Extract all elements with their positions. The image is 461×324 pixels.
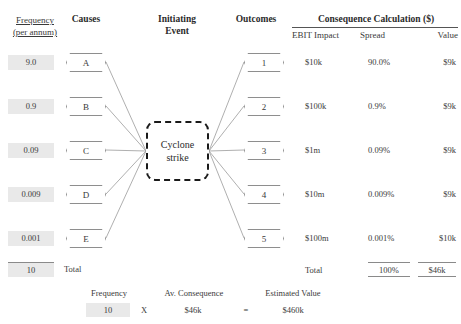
wire-cause-a: [106, 62, 146, 151]
cause-node-a[interactable]: A: [66, 53, 106, 72]
summary-av-consequence-label: Av. Consequence: [148, 288, 240, 298]
frequency-cell: 0.009: [8, 187, 54, 202]
cause-node-d[interactable]: D: [66, 185, 106, 204]
header-frequency-line2: (per annum): [13, 26, 57, 38]
value-cell: $9k: [418, 144, 456, 156]
outcome-node-5[interactable]: 5: [244, 229, 284, 248]
header-consequence-calculation: Consequence Calculation ($): [292, 14, 460, 24]
initiating-event-node[interactable]: Cyclone strike: [146, 121, 209, 181]
cause-node-e[interactable]: E: [66, 229, 106, 248]
value-cell: $10k: [418, 232, 456, 244]
frequency-total: 10: [8, 262, 54, 277]
initiating-event-label-line2: strike: [166, 152, 188, 163]
header-frequency-line1: Frequency: [16, 14, 54, 26]
initiating-event-label: Cyclone strike: [161, 138, 194, 164]
ebit-impact-cell: $100k: [305, 100, 363, 112]
wire-outcome-4: [209, 151, 244, 194]
ebit-impact-cell: $10k: [305, 56, 363, 68]
wire-cause-e: [106, 151, 146, 238]
consequence-header-rule: [292, 27, 458, 28]
outcome-node-2[interactable]: 2: [244, 97, 284, 116]
ebit-impact-cell: $100m: [305, 232, 363, 244]
ebit-impact-cell: $1m: [305, 144, 363, 156]
outcome-node-4[interactable]: 4: [244, 185, 284, 204]
cause-node-b[interactable]: B: [66, 97, 106, 116]
header-spread: Spread: [360, 30, 412, 40]
wire-outcome-2: [209, 106, 244, 151]
summary-av-consequence-value: $46k: [158, 303, 228, 317]
value-total: $46k: [418, 262, 456, 277]
outcome-node-3[interactable]: 3: [244, 141, 284, 160]
summary-frequency-value: 10: [86, 303, 130, 317]
summary-frequency-label: Frequency: [78, 288, 140, 298]
header-initiating-line2: Event: [165, 26, 189, 36]
frequency-cell: 9.0: [8, 55, 54, 70]
header-causes: Causes: [58, 14, 114, 26]
wire-cause-b: [106, 106, 146, 151]
header-initiating-event: Initiating Event: [130, 14, 224, 37]
frequency-total-label: Total: [64, 264, 81, 274]
summary-estimated-value: $460k: [262, 303, 324, 317]
spread-cell: 0.009%: [368, 188, 416, 200]
spread-cell: 0.09%: [368, 144, 416, 156]
wire-outcome-1: [209, 62, 244, 151]
wire-outcome-5: [209, 151, 244, 238]
header-initiating-line1: Initiating: [158, 14, 196, 24]
wire-outcome-3: [209, 150, 244, 151]
consequence-total-label: Total: [305, 264, 363, 276]
wire-cause-c: [106, 150, 146, 151]
value-cell: $9k: [418, 56, 456, 68]
spread-cell: 0.9%: [368, 100, 416, 112]
summary-estimated-value-label: Estimated Value: [250, 288, 336, 298]
frequency-cell: 0.001: [8, 231, 54, 246]
spread-total: 100%: [368, 262, 410, 277]
header-value: Value: [418, 30, 458, 40]
frequency-cell: 0.9: [8, 99, 54, 114]
header-ebit-impact: EBIT Impact: [292, 30, 354, 40]
header-outcomes: Outcomes: [222, 14, 290, 26]
summary-equals-operator: =: [238, 303, 254, 317]
ebit-impact-cell: $10m: [305, 188, 363, 200]
frequency-cell: 0.09: [8, 143, 54, 158]
spread-cell: 0.001%: [368, 232, 416, 244]
spread-cell: 90.0%: [368, 56, 416, 68]
value-cell: $9k: [418, 100, 456, 112]
summary-multiply-operator: X: [136, 303, 152, 317]
value-cell: $9k: [418, 188, 456, 200]
initiating-event-label-line1: Cyclone: [161, 139, 194, 150]
wire-cause-d: [106, 151, 146, 194]
outcome-node-1[interactable]: 1: [244, 53, 284, 72]
cause-node-c[interactable]: C: [66, 141, 106, 160]
